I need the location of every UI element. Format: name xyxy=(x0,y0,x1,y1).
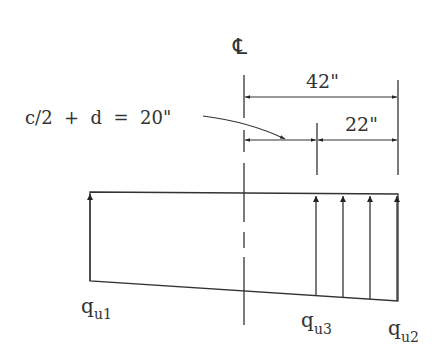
svg-text:q: q xyxy=(388,316,401,340)
centerline-symbol: ℄ xyxy=(232,34,248,59)
svg-text:u2: u2 xyxy=(401,329,419,345)
label-qu2: q u2 xyxy=(388,316,419,345)
dimension-42-label: 42" xyxy=(306,70,339,92)
svg-text:q: q xyxy=(301,308,314,332)
svg-text:u1: u1 xyxy=(94,306,112,322)
svg-text:u3: u3 xyxy=(314,321,332,337)
label-qu3: q u3 xyxy=(301,308,332,337)
footing-pressure-diagram: ℄ 42" 22" c/2 + d = 20" q u1 q u3 q u2 xyxy=(0,0,438,361)
critical-section-label: c/2 + d = 20" xyxy=(25,107,171,128)
label-qu1: q u1 xyxy=(81,294,112,322)
dimension-22-label: 22" xyxy=(345,113,378,135)
svg-text:q: q xyxy=(81,294,94,318)
